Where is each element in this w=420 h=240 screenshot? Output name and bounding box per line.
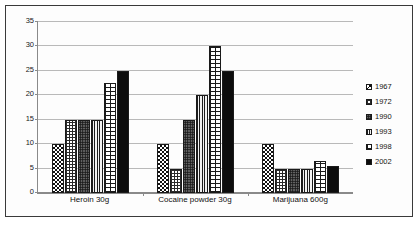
legend-item-label: 1972 [375,98,392,106]
x-axis-category-label: Marijuana 600g [248,196,353,205]
legend-item-label: 1998 [375,143,392,151]
bar-1967 [262,144,274,193]
bar-group [248,22,353,193]
x-axis-labels: Heroin 30gCocaine powder 30gMarijuana 60… [37,196,353,205]
bar-1972 [65,120,77,193]
bar-group [38,22,143,193]
legend-item-label: 1990 [375,113,392,121]
legend-item-1967[interactable]: 1967 [366,79,412,94]
legend-item-1998[interactable]: 1998 [366,139,412,154]
bar-1993 [196,95,208,193]
bar-2002 [222,71,234,193]
legend-item-label: 2002 [375,158,392,166]
bar-1998 [104,83,116,193]
bar-1990 [183,120,195,193]
legend-swatch-icon [366,84,372,90]
legend-item-label: 1993 [375,128,392,136]
bar-1967 [52,144,64,193]
x-axis-category-label: Heroin 30g [37,196,142,205]
bar-1993 [91,120,103,193]
bar-groups [38,22,353,193]
legend-swatch-icon [366,99,372,105]
bar-1998 [209,46,221,193]
legend-item-label: 1967 [375,83,392,91]
legend-swatch-icon [366,129,372,135]
bar-group [143,22,248,193]
legend-item-1990[interactable]: 1990 [366,109,412,124]
bar-1990 [78,120,90,193]
legend-swatch-icon [366,159,372,165]
bar-1990 [288,169,300,193]
bar-1967 [157,144,169,193]
bar-2002 [117,71,129,193]
legend-item-1972[interactable]: 1972 [366,94,412,109]
plot-area: 05101520253035 [37,22,353,194]
x-axis-category-label: Cocaine powder 30g [142,196,247,205]
legend-swatch-icon [366,114,372,120]
bar-1998 [314,161,326,193]
legend-item-2002[interactable]: 2002 [366,154,412,169]
bar-2002 [327,166,339,193]
legend-swatch-icon [366,144,372,150]
chart-legend: 196719721990199319982002 [366,79,412,169]
bar-1993 [301,169,313,193]
bar-1972 [170,169,182,193]
legend-item-1993[interactable]: 1993 [366,124,412,139]
chart-frame: 05101520253035 Heroin 30gCocaine powder … [5,5,413,217]
bar-1972 [275,169,287,193]
